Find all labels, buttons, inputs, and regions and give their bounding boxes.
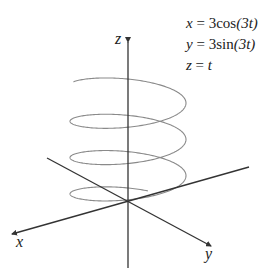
x-axis-label: x [16, 233, 23, 251]
equation-z: z = t [186, 56, 212, 75]
y-axis-label: y [205, 245, 212, 263]
z-axis-label: z [115, 30, 121, 48]
equation-x: x = 3cos(3t) [186, 14, 258, 33]
x-axis [12, 167, 249, 234]
equation-y: y = 3sin(3t) [186, 35, 255, 54]
y-axis [47, 158, 211, 246]
